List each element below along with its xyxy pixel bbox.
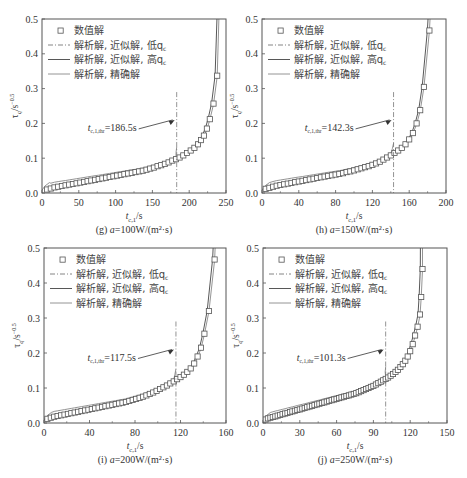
y-tick-label: 0.1 bbox=[247, 383, 260, 394]
legend-item-label: 数值解 bbox=[74, 24, 104, 36]
square-marker-icon bbox=[60, 257, 65, 262]
legend: 数值解解析解, 近似解, 低qc解析解, 近似解, 高qc解析解, 精确解 bbox=[48, 24, 166, 80]
exact-solution-curve bbox=[45, 0, 220, 192]
y-tick-label: 0.2 bbox=[246, 118, 259, 129]
y-tick-label: 0.5 bbox=[26, 14, 39, 25]
x-tick-label: 0 bbox=[40, 197, 45, 208]
x-tick-label: 150 bbox=[145, 197, 160, 208]
y-tick-label: 0.3 bbox=[28, 313, 41, 324]
legend-item-label: 解析解, 近似解, 高qc bbox=[74, 53, 166, 66]
panel-caption: (i) a=200W/(m²·s) bbox=[98, 454, 172, 466]
x-tick-label: 30 bbox=[295, 427, 305, 438]
svg-text:τq/s−0.5: τq/s−0.5 bbox=[9, 94, 22, 118]
y-tick-label: 0.2 bbox=[28, 348, 41, 359]
y-axis-label: τq/s−0.5 bbox=[9, 94, 22, 118]
legend-item-label: 解析解, 近似解, 高qc bbox=[294, 53, 386, 66]
panel-g-chart: 0501001502002500.00.10.20.30.40.5tc,1/sτ… bbox=[9, 0, 234, 236]
y-tick-label: 0.4 bbox=[246, 48, 259, 59]
x-tick-label: 100 bbox=[108, 197, 123, 208]
y-tick-label: 0.4 bbox=[28, 278, 41, 289]
y-tick-label: 0.0 bbox=[28, 418, 41, 429]
y-tick-label: 0.3 bbox=[26, 83, 39, 94]
legend-item-label: 解析解, 精确解 bbox=[295, 297, 361, 309]
svg-text:τq/s−0.5: τq/s−0.5 bbox=[229, 94, 242, 118]
panel-j-chart: 03060901201500.00.10.20.30.40.5tc,1/sτq/… bbox=[230, 206, 455, 466]
legend-item-label: 解析解, 精确解 bbox=[294, 68, 360, 80]
x-tick-label: 150 bbox=[440, 427, 455, 438]
y-tick-label: 0.2 bbox=[26, 118, 39, 129]
x-tick-label: 120 bbox=[403, 427, 418, 438]
exact-solution-curve bbox=[264, 0, 432, 192]
threshold-annotation: tc,1,thr=117.5s bbox=[87, 352, 136, 365]
y-tick-label: 0.5 bbox=[246, 14, 259, 25]
svg-text:τq/s−0.5: τq/s−0.5 bbox=[11, 323, 24, 347]
x-axis-label: tc,1/s bbox=[346, 211, 363, 223]
y-tick-label: 0.1 bbox=[28, 383, 41, 394]
x-tick-label: 90 bbox=[368, 427, 378, 438]
legend-item-label: 解析解, 近似解, 高qc bbox=[295, 282, 387, 295]
x-tick-label: 160 bbox=[219, 427, 234, 438]
legend-item-label: 解析解, 近似解, 高qc bbox=[76, 282, 168, 295]
x-axis-label: tc,1/s bbox=[347, 441, 364, 453]
panel-h-chart: 040801201602000.00.10.20.30.40.5tc,1/sτq… bbox=[229, 0, 454, 236]
y-axis-label: τq/s−0.5 bbox=[230, 323, 243, 347]
x-tick-label: 50 bbox=[74, 197, 84, 208]
x-tick-label: 0 bbox=[42, 427, 47, 438]
x-tick-label: 200 bbox=[182, 197, 197, 208]
panel-caption: (g) a=100W/(m²·s) bbox=[96, 224, 173, 236]
y-tick-label: 0.3 bbox=[247, 313, 260, 324]
x-tick-label: 0 bbox=[260, 197, 265, 208]
figure: 0501001502002500.00.10.20.30.40.5tc,1/sτ… bbox=[0, 0, 467, 478]
legend: 数值解解析解, 近似解, 低qc解析解, 近似解, 高qc解析解, 精确解 bbox=[50, 253, 168, 309]
x-tick-label: 80 bbox=[331, 197, 341, 208]
threshold-annotation: tc,1,thr=101.3s bbox=[297, 352, 346, 365]
threshold-annotation: tc,1,thr=142.3s bbox=[305, 122, 354, 135]
y-tick-label: 0.5 bbox=[247, 243, 260, 254]
x-axis-label: tc,1/s bbox=[127, 441, 144, 453]
x-tick-label: 40 bbox=[294, 197, 304, 208]
panel-i-chart: 040801201600.00.10.20.30.40.5tc,1/sτq/s−… bbox=[11, 206, 234, 466]
panel-caption: (j) a=250W/(m²·s) bbox=[318, 454, 392, 466]
y-tick-label: 0.5 bbox=[28, 243, 41, 254]
exact-solution-curve bbox=[265, 206, 423, 422]
legend-item-label: 数值解 bbox=[76, 253, 106, 265]
high-qc-approx-curve bbox=[47, 0, 218, 189]
legend: 数值解解析解, 近似解, 低qc解析解, 近似解, 高qc解析解, 精确解 bbox=[269, 253, 387, 309]
y-tick-label: 0.0 bbox=[26, 188, 39, 199]
legend-item-label: 数值解 bbox=[295, 253, 325, 265]
y-tick-label: 0.1 bbox=[246, 153, 259, 164]
y-tick-label: 0.4 bbox=[26, 48, 39, 59]
square-marker-icon bbox=[278, 28, 283, 33]
y-tick-label: 0.3 bbox=[246, 83, 259, 94]
exact-solution-curve bbox=[46, 206, 217, 422]
legend: 数值解解析解, 近似解, 低qc解析解, 近似解, 高qc解析解, 精确解 bbox=[268, 24, 386, 80]
panel-caption: (h) a=150W/(m²·s) bbox=[316, 224, 393, 236]
y-axis-label: τq/s−0.5 bbox=[229, 94, 242, 118]
y-tick-label: 0.1 bbox=[26, 153, 39, 164]
legend-item-label: 解析解, 近似解, 低qc bbox=[294, 39, 386, 52]
legend-item-label: 解析解, 近似解, 低qc bbox=[76, 268, 168, 281]
numeric-solution-markers bbox=[263, 28, 432, 192]
legend-item-label: 数值解 bbox=[294, 24, 324, 36]
x-tick-label: 200 bbox=[439, 197, 454, 208]
square-marker-icon bbox=[58, 28, 63, 33]
y-tick-label: 0.0 bbox=[247, 418, 260, 429]
y-axis-label: τq/s−0.5 bbox=[11, 323, 24, 347]
numeric-solution-markers bbox=[45, 257, 217, 422]
x-tick-label: 120 bbox=[365, 197, 380, 208]
legend-item-label: 解析解, 近似解, 低qc bbox=[74, 39, 166, 52]
x-tick-label: 160 bbox=[402, 197, 417, 208]
x-tick-label: 40 bbox=[85, 427, 95, 438]
x-axis-label: tc,1/s bbox=[126, 211, 143, 223]
high-qc-approx-curve bbox=[266, 206, 421, 419]
x-tick-label: 0 bbox=[261, 427, 266, 438]
legend-item-label: 解析解, 精确解 bbox=[76, 297, 142, 309]
svg-text:τq/s−0.5: τq/s−0.5 bbox=[230, 323, 243, 347]
legend-item-label: 解析解, 近似解, 低qc bbox=[295, 268, 387, 281]
high-qc-approx-curve bbox=[47, 206, 215, 418]
legend-item-label: 解析解, 精确解 bbox=[74, 68, 140, 80]
threshold-annotation: tc,1,thr=186.5s bbox=[88, 122, 137, 135]
x-tick-label: 60 bbox=[332, 427, 342, 438]
x-tick-label: 80 bbox=[130, 427, 140, 438]
y-tick-label: 0.2 bbox=[247, 348, 260, 359]
